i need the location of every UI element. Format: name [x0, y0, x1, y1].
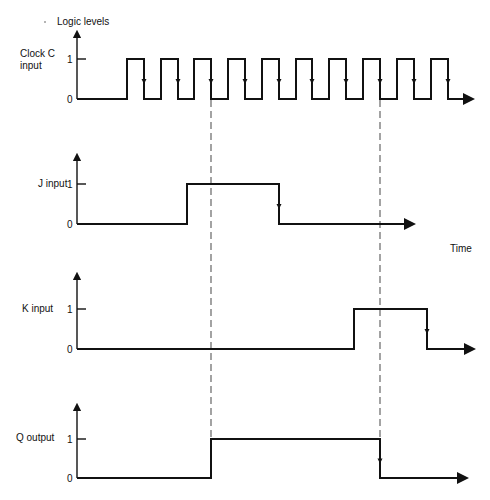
tick-label-0: 0: [67, 344, 73, 355]
falling-edge-arrow-icon: [209, 79, 214, 84]
falling-edge-arrow-icon: [277, 79, 282, 84]
signal-label: Clock C: [20, 48, 55, 59]
time-axis-label: Time: [450, 243, 472, 254]
falling-edge-arrow-icon: [243, 79, 248, 84]
signal-clock: Clock Cinput10: [20, 34, 469, 105]
falling-edge-arrow-icon: [277, 204, 282, 209]
sync-lines: [211, 100, 380, 438]
signal-k: K input10: [22, 276, 470, 355]
tick-label-1: 1: [67, 434, 73, 445]
signal-label: K input: [22, 303, 53, 314]
y-axis-title: Logic levels: [57, 16, 109, 27]
signal-q: Q output10: [16, 407, 463, 484]
waveform: [77, 184, 410, 224]
falling-edge-arrow-icon: [344, 79, 349, 84]
signal-label-line2: input: [20, 60, 42, 71]
signal-j: J input10: [38, 157, 410, 230]
tick-label-0: 0: [67, 473, 73, 484]
falling-edge-arrow-icon: [310, 79, 315, 84]
tick-label-1: 1: [67, 304, 73, 315]
falling-edge-arrow-icon: [378, 459, 383, 464]
tick-label-1: 1: [67, 54, 73, 65]
tick-label-1: 1: [67, 179, 73, 190]
falling-edge-arrow-icon: [176, 79, 181, 84]
falling-edge-arrow-icon: [446, 79, 451, 84]
signal-traces: Clock Cinput10J input10K input10Q output…: [16, 34, 470, 484]
waveform: [77, 59, 469, 99]
waveform: [77, 439, 463, 478]
falling-edge-arrow-icon: [412, 79, 417, 84]
falling-edge-arrow-icon: [425, 329, 430, 334]
waveform: [77, 309, 470, 349]
falling-edge-arrow-icon: [142, 79, 147, 84]
signal-label: J input: [38, 178, 68, 189]
stray-dot: [44, 21, 46, 23]
jk-flipflop-timing-diagram: Logic levels Time Clock Cinput10J input1…: [0, 0, 490, 500]
falling-edge-arrow-icon: [378, 79, 383, 84]
signal-label: Q output: [16, 432, 55, 443]
tick-label-0: 0: [67, 94, 73, 105]
tick-label-0: 0: [67, 219, 73, 230]
